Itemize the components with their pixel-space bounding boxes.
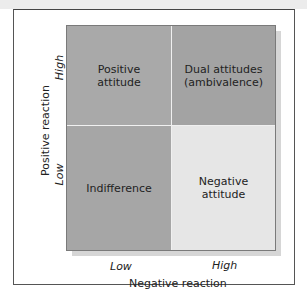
horizontal-divider <box>67 125 275 126</box>
cell-text-line: Positive <box>97 63 140 76</box>
vertical-divider <box>171 26 172 250</box>
y-tick-high: High <box>53 53 66 83</box>
top-bar <box>0 0 307 9</box>
attitude-matrix: Positive attitude Dual attitudes (ambiva… <box>66 25 276 251</box>
cell-positive-attitude: Positive attitude <box>67 26 171 125</box>
cell-text-line: attitude <box>97 76 140 89</box>
x-tick-low: Low <box>110 260 132 273</box>
cell-text-line: (ambivalence) <box>184 76 263 89</box>
cell-text-line: Dual attitudes <box>184 63 263 76</box>
x-axis-label: Negative reaction <box>129 277 227 290</box>
x-tick-high: High <box>212 259 237 272</box>
cell-dual-attitudes: Dual attitudes (ambivalence) <box>172 26 275 125</box>
cell-negative-attitude: Negative attitude <box>172 126 275 250</box>
y-tick-low: Low <box>53 160 66 190</box>
cell-text-line: Indifference <box>86 182 151 195</box>
cell-text-line: Negative <box>199 175 248 188</box>
y-axis-label: Positive reaction <box>39 81 52 181</box>
cell-text-line: attitude <box>199 188 248 201</box>
cell-indifference: Indifference <box>67 126 171 250</box>
